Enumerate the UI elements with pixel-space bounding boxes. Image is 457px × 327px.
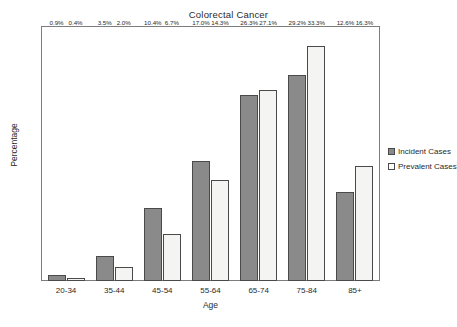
bar-group: 26.3% 27.1% bbox=[235, 27, 283, 281]
bar-prevalent[interactable] bbox=[307, 46, 325, 281]
bar-value-label: 16.3% bbox=[356, 20, 374, 26]
bar-value-label: 12.6% bbox=[337, 20, 355, 26]
bar-incident[interactable] bbox=[288, 75, 306, 281]
chart-legend: Incident Cases Prevalent Cases bbox=[388, 144, 457, 174]
bar-prevalent[interactable] bbox=[259, 90, 277, 281]
bar-incident[interactable] bbox=[192, 161, 210, 281]
bar-wrap-incident: 17.0% bbox=[192, 27, 210, 281]
x-tick-label: 75-84 bbox=[283, 286, 331, 295]
bar-wrap-prevalent: 16.3% bbox=[355, 27, 373, 281]
bar-value-label: 27.1% bbox=[259, 20, 277, 26]
bar-value-label: 29.2% bbox=[288, 20, 306, 26]
bar-wrap-prevalent: 14.3% bbox=[211, 27, 229, 281]
bar-wrap-incident: 10.4% bbox=[144, 27, 162, 281]
bar-wrap-incident: 3.5% bbox=[96, 27, 114, 281]
bar-value-label: 33.3% bbox=[307, 20, 325, 26]
bar-group: 10.4% 6.7% bbox=[138, 27, 186, 281]
bar-incident[interactable] bbox=[144, 208, 162, 281]
bar-group: 29.2% 33.3% bbox=[283, 27, 331, 281]
bar-prevalent[interactable] bbox=[115, 267, 133, 281]
bar-value-label: 0.9% bbox=[50, 20, 64, 26]
legend-label: Incident Cases bbox=[398, 147, 451, 156]
bar-value-label: 14.3% bbox=[211, 20, 229, 26]
bar-value-label: 6.7% bbox=[165, 20, 179, 26]
bar-value-label: 0.4% bbox=[69, 20, 83, 26]
bar-prevalent[interactable] bbox=[163, 234, 181, 281]
bar-wrap-prevalent: 33.3% bbox=[307, 27, 325, 281]
bar-wrap-incident: 0.9% bbox=[48, 27, 66, 281]
bar-prevalent[interactable] bbox=[211, 180, 229, 281]
bar-group: 0.9% 0.4% bbox=[42, 27, 90, 281]
chart-screenshot: Colorectal Cancer 0.9% 0.4% 3.5% 2.0% bbox=[0, 0, 457, 327]
y-axis-title: Percentage bbox=[9, 110, 19, 180]
bar-incident[interactable] bbox=[336, 192, 354, 281]
bar-value-label: 2.0% bbox=[117, 20, 131, 26]
x-tick-label: 45-54 bbox=[138, 286, 186, 295]
x-tick-label: 35-44 bbox=[90, 286, 138, 295]
x-axis-title: Age bbox=[42, 300, 379, 310]
bar-wrap-prevalent: 2.0% bbox=[115, 27, 133, 281]
bar-prevalent[interactable] bbox=[355, 166, 373, 281]
x-tick-label: 65-74 bbox=[235, 286, 283, 295]
x-tick-label: 85+ bbox=[331, 286, 379, 295]
bar-prevalent[interactable] bbox=[67, 278, 85, 281]
bar-incident[interactable] bbox=[96, 256, 114, 281]
plot-area: 0.9% 0.4% 3.5% 2.0% 10.4% bbox=[42, 27, 379, 281]
bar-wrap-incident: 12.6% bbox=[336, 27, 354, 281]
bar-group: 12.6% 16.3% bbox=[331, 27, 379, 281]
x-tick-label: 55-64 bbox=[186, 286, 234, 295]
bar-group: 3.5% 2.0% bbox=[90, 27, 138, 281]
bar-wrap-incident: 29.2% bbox=[288, 27, 306, 281]
legend-label: Prevalent Cases bbox=[398, 162, 457, 171]
legend-swatch-icon bbox=[388, 148, 395, 155]
x-axis-tick-labels: 20-34 35-44 45-54 55-64 65-74 75-84 85+ bbox=[42, 286, 379, 295]
bar-wrap-prevalent: 0.4% bbox=[67, 27, 85, 281]
x-tick-label: 20-34 bbox=[42, 286, 90, 295]
bar-wrap-prevalent: 27.1% bbox=[259, 27, 277, 281]
bar-wrap-prevalent: 6.7% bbox=[163, 27, 181, 281]
bar-value-label: 17.0% bbox=[192, 20, 210, 26]
bar-value-label: 3.5% bbox=[98, 20, 112, 26]
bar-value-label: 10.4% bbox=[144, 20, 162, 26]
legend-swatch-icon bbox=[388, 163, 395, 170]
bar-incident[interactable] bbox=[240, 95, 258, 281]
legend-item-prevalent-cases[interactable]: Prevalent Cases bbox=[388, 159, 457, 174]
bar-wrap-incident: 26.3% bbox=[240, 27, 258, 281]
bar-group: 17.0% 14.3% bbox=[186, 27, 234, 281]
bar-value-label: 26.3% bbox=[240, 20, 258, 26]
bar-incident[interactable] bbox=[48, 275, 66, 281]
legend-item-incident-cases[interactable]: Incident Cases bbox=[388, 144, 457, 159]
